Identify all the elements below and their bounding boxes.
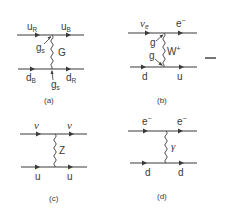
diagram-b: νe e− g W+ g d u (b) [128, 17, 197, 105]
caption-d: (d) [157, 192, 167, 201]
arrow-icon [178, 31, 183, 36]
label-out-top: e− [177, 115, 187, 127]
arrow-icon [179, 65, 184, 70]
label-in-bottom: dB [26, 72, 36, 84]
feynman-diagram-figure: uR uB gs G dB dR gs (a) νe e− g W+ g d u… [0, 0, 228, 215]
label-in-bottom: u [35, 171, 41, 182]
label-out-bottom: d [178, 167, 184, 178]
boson-label: γ [171, 140, 176, 152]
label-out-bottom: dR [66, 72, 77, 84]
arrow-icon [179, 161, 184, 166]
label-in-top: ν [34, 119, 39, 131]
arrow-icon [35, 165, 40, 170]
label-in-bottom: d [145, 167, 151, 178]
z-boson-propagator [54, 134, 57, 167]
arrow-icon [143, 129, 148, 134]
label-in-bottom: d [142, 71, 148, 82]
label-in-top: νe [140, 17, 149, 30]
caption-a: (a) [44, 96, 54, 105]
arrow-icon [66, 67, 71, 72]
coupling-label-bottom: gs [51, 79, 61, 91]
arrow-icon [69, 132, 74, 137]
boson-label: G [58, 47, 66, 58]
coupling-label-bottom: g [149, 50, 155, 61]
diagram-a: uR uB gs G dB dR gs (a) [17, 21, 84, 105]
photon-propagator [165, 131, 168, 163]
arrow-icon [141, 65, 146, 70]
arrow-icon [178, 129, 183, 134]
arrow-icon [142, 161, 147, 166]
label-out-bottom: u [67, 171, 73, 182]
arrow-icon [66, 33, 71, 38]
label-in-top: e− [142, 115, 152, 127]
arrow-icon [35, 33, 40, 38]
arrow-icon [51, 70, 54, 74]
label-out-top: uB [61, 21, 71, 33]
caption-b: (b) [157, 96, 167, 105]
arrow-icon [36, 132, 41, 137]
label-out-top: ν [67, 119, 72, 131]
label-out-top: e− [176, 17, 186, 29]
label-out-bottom: u [177, 71, 183, 82]
diagram-c: ν ν Z u u (c) [20, 119, 87, 203]
arrow-icon [30, 67, 35, 72]
label-in-top: uR [27, 21, 38, 33]
boson-label: W+ [167, 45, 181, 57]
w-boson-propagator [163, 33, 166, 67]
arrow-icon [145, 31, 150, 36]
gluon-propagator [51, 35, 54, 69]
boson-label: Z [59, 145, 65, 156]
coupling-label-top: g [150, 37, 156, 48]
diagram-d: e− e− γ d d (d) [128, 115, 197, 201]
arrow-icon [68, 165, 73, 170]
caption-c: (c) [49, 194, 59, 203]
